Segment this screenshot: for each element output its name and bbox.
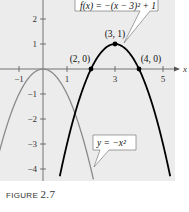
- svg-text:−1: −1: [27, 89, 37, 99]
- svg-text:1: 1: [33, 39, 38, 49]
- svg-text:(2, 0): (2, 0): [70, 54, 91, 65]
- svg-text:−2: −2: [27, 114, 37, 124]
- caption-number: 2.7: [41, 188, 56, 200]
- x-axis-arrow-icon: [174, 67, 180, 72]
- svg-text:y = −x²: y = −x²: [96, 138, 126, 148]
- x-axis-label: x: [182, 64, 187, 74]
- svg-text:−4: −4: [27, 164, 37, 174]
- svg-text:1: 1: [65, 74, 70, 84]
- svg-text:2: 2: [33, 14, 38, 24]
- svg-text:3: 3: [113, 74, 118, 84]
- svg-text:(3, 1): (3, 1): [105, 29, 126, 40]
- figure-caption: FIGURE 2.7: [6, 188, 55, 200]
- svg-text:−1: −1: [14, 74, 24, 84]
- svg-text:f(x) = −(x − 3)² + 1: f(x) = −(x − 3)² + 1: [80, 1, 156, 12]
- svg-text:−3: −3: [27, 139, 37, 149]
- svg-text:(4, 0): (4, 0): [141, 54, 162, 65]
- caption-label: FIGURE: [6, 191, 38, 200]
- svg-text:5: 5: [161, 74, 166, 84]
- chart: x −113521−1−2−3−4 (3, 1)(2, 0)(4, 0) f(x…: [0, 0, 189, 212]
